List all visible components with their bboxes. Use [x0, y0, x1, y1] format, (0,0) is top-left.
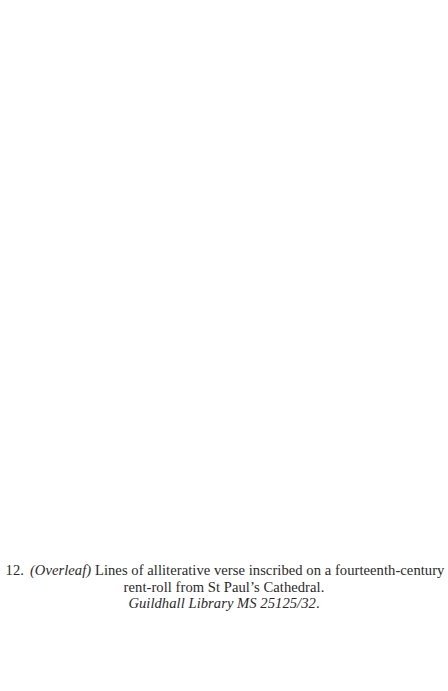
- source-reference: Guildhall Library MS 25125/32: [128, 595, 316, 611]
- caption-line-2: rent-roll from St Paul’s Cathedral.: [0, 579, 448, 596]
- source-period: .: [316, 595, 320, 611]
- figure-number: 12.: [6, 562, 24, 578]
- caption-line-1: 12.(Overleaf) Lines of alliterative vers…: [0, 562, 448, 579]
- figure-caption: 12.(Overleaf) Lines of alliterative vers…: [0, 562, 448, 612]
- overleaf-label: (Overleaf): [30, 562, 91, 578]
- caption-description-part-1: Lines of alliterative verse inscribed on…: [91, 562, 444, 578]
- document-page: 12.(Overleaf) Lines of alliterative vers…: [0, 0, 448, 691]
- caption-line-3: Guildhall Library MS 25125/32.: [0, 595, 448, 612]
